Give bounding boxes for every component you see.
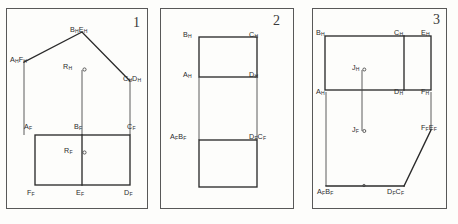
label-rh: RH — [63, 63, 72, 70]
label-bh-eh: BHEH — [70, 26, 87, 33]
panel-two-frame — [161, 9, 294, 209]
drawing-sheet: 1 AHFH BHEH CHDH RH AF BF CF RF FF EF DF… — [0, 0, 458, 224]
label-ch: CH — [394, 29, 403, 36]
panel-number-one: 1 — [133, 16, 140, 30]
panel-two: 2 BH CH AH DH AFBF DFCF — [155, 0, 308, 224]
label-df-cf: DFCF — [387, 188, 404, 195]
label-ff-ef: FFEF — [421, 124, 437, 131]
label-fh: FH — [421, 88, 429, 95]
label-ah: AH — [316, 88, 325, 95]
label-ch: CH — [249, 31, 258, 38]
top-view-rectangle — [325, 36, 431, 90]
panel-three-frame — [313, 9, 447, 209]
label-bf: BF — [74, 123, 82, 130]
gable-roof-top-view — [24, 32, 130, 81]
label-ef: EF — [76, 189, 84, 196]
panel-number-three: 3 — [433, 13, 440, 27]
panel-one-frame — [7, 9, 148, 209]
front-view-square — [199, 140, 257, 187]
panel-one: 1 AHFH BHEH CHDH RH AF BF CF RF FF EF DF — [0, 0, 155, 224]
label-af-bf: AFBF — [317, 188, 333, 195]
label-eh: EH — [421, 29, 430, 36]
label-rf: RF — [64, 147, 73, 154]
panel-three: 3 BH CH EH AH JH DH FH JF FFEF AFBF DFCF — [308, 0, 458, 224]
label-ff: FF — [27, 189, 35, 196]
j-h-point-marker — [363, 68, 366, 71]
label-dh: DH — [249, 71, 258, 78]
label-af: AF — [24, 123, 32, 130]
label-jf: JF — [352, 126, 359, 133]
front-view-incline-line — [404, 130, 431, 186]
r-h-point-marker — [83, 68, 86, 71]
panel-number-two: 2 — [273, 14, 280, 28]
label-ah-fh: AHFH — [10, 56, 27, 63]
label-bh: BH — [316, 29, 325, 36]
r-f-point-marker — [83, 151, 86, 154]
label-ch-dh: CHDH — [123, 75, 141, 82]
label-dh: DH — [394, 88, 403, 95]
label-bh: BH — [183, 31, 192, 38]
j-f-point-marker — [363, 130, 366, 133]
panel-two-drawing — [155, 0, 308, 224]
label-jh: JH — [352, 64, 359, 71]
label-ah: AH — [183, 71, 192, 78]
label-cf: CF — [127, 123, 136, 130]
label-df: DF — [124, 189, 133, 196]
label-df-cf: DFCF — [249, 133, 266, 140]
label-af-bf: AFBF — [170, 133, 186, 140]
